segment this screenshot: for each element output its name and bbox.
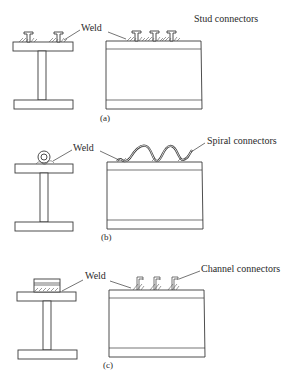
slab-b bbox=[107, 162, 203, 229]
spiral-connector-end-view bbox=[36, 151, 54, 164]
weld-leader-line bbox=[53, 150, 72, 161]
channel-connector bbox=[168, 277, 179, 290]
caption-b: (b) bbox=[101, 232, 112, 242]
stud-connector bbox=[162, 31, 180, 41]
bottom-flange bbox=[18, 350, 77, 359]
web bbox=[40, 173, 48, 222]
panel-b: Weld Spiral connectors (b) bbox=[15, 135, 277, 242]
top-flange bbox=[13, 42, 73, 51]
stud-connectors-label: Stud connectors bbox=[194, 13, 258, 24]
weld-leader-line bbox=[62, 280, 83, 291]
caption-c: (c) bbox=[103, 360, 113, 370]
slab-a bbox=[106, 41, 202, 109]
top-flange bbox=[15, 164, 73, 173]
weld-label: Weld bbox=[73, 142, 94, 153]
weld-label: Weld bbox=[85, 270, 106, 281]
panel-a: Weld Stud connectors (a) bbox=[13, 13, 258, 123]
weld-leader-line bbox=[108, 32, 126, 39]
channel-leader-line bbox=[179, 271, 200, 279]
web bbox=[43, 301, 51, 350]
channel-connector bbox=[133, 277, 144, 290]
weld-label: Weld bbox=[81, 22, 102, 33]
spiral-connectors-label: Spiral connectors bbox=[207, 135, 277, 146]
channel-connector-end-view bbox=[34, 279, 60, 292]
stud-connector bbox=[127, 31, 145, 41]
bottom-flange bbox=[14, 100, 73, 109]
weld-leader-line bbox=[64, 30, 80, 40]
i-beam-c bbox=[17, 292, 77, 359]
channel-connector bbox=[150, 277, 161, 290]
bottom-flange bbox=[15, 222, 73, 231]
channel-connectors-label: Channel connectors bbox=[201, 263, 280, 274]
spiral-connector bbox=[117, 146, 192, 162]
stud-connector bbox=[145, 31, 163, 41]
web bbox=[38, 51, 46, 100]
panel-c: Weld Channel connectors (c) bbox=[17, 263, 280, 370]
i-beam-a bbox=[13, 42, 73, 109]
stud-connector bbox=[19, 32, 37, 42]
weld-leader-line bbox=[110, 281, 131, 288]
i-beam-b bbox=[15, 164, 73, 231]
top-flange bbox=[17, 292, 76, 301]
shear-connectors-diagram: Weld Stud connectors (a) bbox=[0, 0, 291, 387]
stud-connector bbox=[49, 32, 67, 42]
spiral-leader-line bbox=[191, 143, 205, 152]
weld-leader-line bbox=[100, 151, 119, 160]
slab-c bbox=[109, 290, 205, 357]
caption-a: (a) bbox=[100, 113, 110, 123]
